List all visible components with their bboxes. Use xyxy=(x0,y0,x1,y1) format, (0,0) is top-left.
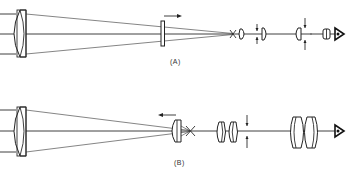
eye-lens-a xyxy=(323,29,330,39)
relay-lens-1-a xyxy=(262,28,266,40)
optical-diagram xyxy=(0,0,351,175)
panel-a xyxy=(0,10,344,57)
ray-bottom-b xyxy=(26,132,190,153)
ray-top-a xyxy=(26,14,233,34)
relay-doublet-b xyxy=(217,122,238,142)
eye-icon xyxy=(335,125,344,137)
objective-lens-b xyxy=(14,107,26,156)
relay-lens-2-a xyxy=(296,28,301,40)
eyepiece-doublet-b xyxy=(291,117,318,148)
ray-top-b xyxy=(26,110,190,131)
panel-b-label: (B) xyxy=(174,159,185,166)
objective-lens-a xyxy=(14,10,26,57)
stop-arrows-b xyxy=(246,115,249,148)
ray-bottom-a xyxy=(26,35,233,55)
eye-icon xyxy=(335,28,344,40)
arrow-left-icon xyxy=(158,113,176,117)
movable-plate-a xyxy=(161,21,165,46)
movable-lens-b xyxy=(172,120,181,142)
arrow-right-icon xyxy=(164,14,182,18)
field-lens-a xyxy=(239,29,244,39)
panel-a-label: (A) xyxy=(170,58,181,65)
panel-b xyxy=(0,107,344,156)
